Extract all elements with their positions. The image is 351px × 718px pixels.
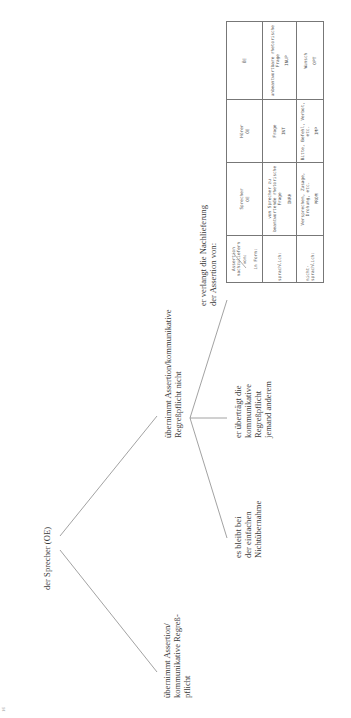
cell-code: INRH	[287, 164, 292, 234]
leaf-line: kommunikative	[243, 381, 253, 438]
corner-bottom-label: in Form:	[253, 237, 258, 281]
root-label: der Sprecher (OE)	[42, 527, 52, 590]
column-header: Sprecher OE	[227, 162, 263, 235]
cell-text: unbeantwortbare rhetorische Frage	[270, 25, 280, 96]
right-branch-line: übernimmt Assertion/kommunikative	[163, 309, 173, 438]
table-cell: Bitte, Befehl, Verbot, etc. IMP	[296, 100, 323, 163]
column-header: Hörer ÖE	[227, 100, 263, 163]
table-cell: Versprechen, Zusage, Drohung, etc. PROM	[296, 162, 323, 235]
column-header: ŌE	[227, 22, 263, 100]
corner-cell: Assertion nachzuliefern von: in Form:	[227, 236, 263, 283]
table-header-row: Assertion nachzuliefern von: in Form: Sp…	[227, 22, 263, 283]
leaf-line: es bleibt bei	[233, 501, 243, 558]
column-sub: ÖE	[245, 101, 250, 161]
leaf-line: jemand anderem	[263, 381, 273, 438]
column-sub: ŌE	[242, 23, 247, 98]
table-cell: unbeantwortbare rhetorische Frage INUP	[263, 22, 297, 100]
right-branch-line: Regreßpflicht nicht	[173, 309, 183, 438]
leaf-line: Nichtübernahme	[253, 501, 263, 558]
row-label: sprachlich:	[263, 236, 297, 283]
left-branch-line: pflicht	[182, 614, 192, 698]
right-branch-node: übernimmt Assertion/kommunikative Regreß…	[163, 309, 183, 438]
column-sub: OE	[245, 164, 250, 234]
row-label: nicht-sprachlich:	[296, 236, 323, 283]
leaf-demand: er verlangt die Nachlieferung der Assert…	[198, 205, 218, 306]
table-cell: Frage INT	[263, 100, 297, 163]
leaf-line: er überträgt die	[233, 381, 243, 438]
cell-code: PROM	[314, 164, 319, 234]
table-row: nicht-sprachlich: Versprechen, Zusage, D…	[296, 22, 323, 283]
left-branch-line: übernimmt Assertion/	[162, 614, 172, 698]
leaf-transfer: er überträgt die kommunikative Regreßpfl…	[233, 381, 273, 438]
cell-code: INUP	[284, 23, 289, 98]
cell-code: INT	[281, 101, 286, 161]
leaf-line: der einfachen	[243, 501, 253, 558]
cell-code: IMP	[314, 101, 319, 161]
cell-text: vom Sprecher zu beantwortende rhetorisch…	[267, 166, 282, 232]
cell-text: Versprechen, Zusage, Drohung, etc.	[300, 173, 310, 226]
leaf-no-adoption: es bleibt bei der einfachen Nichtübernah…	[233, 501, 263, 558]
root-node: der Sprecher (OE)	[42, 527, 52, 590]
diagonal-divider	[233, 252, 247, 268]
cell-text: Wunsch	[303, 53, 308, 69]
left-branch-line: kommunikative Regreß-	[172, 614, 182, 698]
table-cell: vom Sprecher zu beantwortende rhetorisch…	[263, 162, 297, 235]
leaf-line: Regreßpflicht	[253, 381, 263, 438]
cell-code: OPT	[312, 23, 317, 98]
table-row: sprachlich: vom Sprecher zu beantwortend…	[263, 22, 297, 283]
leaf-line: er verlangt die Nachlieferung	[198, 205, 208, 306]
cell-text: Frage	[272, 125, 277, 138]
left-branch-node: übernimmt Assertion/ kommunikative Regre…	[162, 614, 192, 698]
cell-text: Bitte, Befehl, Verbot, etc.	[300, 102, 310, 160]
assertion-table: Assertion nachzuliefern von: in Form: Sp…	[226, 21, 324, 283]
rotated-page: 16 der Sprecher (OE) übernimmt Assertion…	[0, 0, 351, 718]
leaf-line: der Assertion von:	[208, 205, 218, 306]
table-cell: Wunsch OPT	[296, 22, 323, 100]
